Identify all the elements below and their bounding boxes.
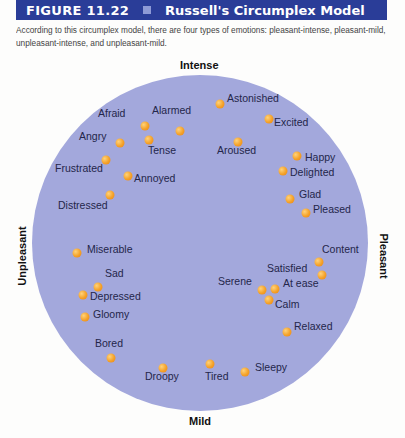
figure-title: Russell's Circumplex Model (165, 3, 365, 18)
axis-label-intense: Intense (180, 59, 219, 71)
emotion-dot (107, 354, 116, 363)
emotion-label: Angry (79, 130, 106, 142)
emotion-dot (116, 139, 125, 148)
emotion-label: Annoyed (134, 172, 175, 184)
emotion-dot (265, 115, 274, 124)
emotion-dot (286, 195, 295, 204)
emotion-dot (302, 209, 311, 218)
emotion-label: Miserable (87, 243, 133, 255)
circumplex-circle (32, 75, 368, 411)
axis-label-pleasant: Pleasant (378, 226, 390, 286)
emotion-label: Tired (205, 370, 229, 382)
figure-number: FIGURE 11.22 (26, 3, 129, 18)
emotion-dot (293, 152, 302, 161)
square-icon (143, 6, 151, 14)
emotion-label: Sad (105, 267, 124, 279)
emotion-label: Excited (274, 116, 308, 128)
emotion-label: Calm (275, 298, 300, 310)
emotion-label: Delighted (290, 166, 334, 178)
emotion-dot (216, 100, 225, 109)
emotion-dot (265, 296, 274, 305)
figure-caption: According to this circumplex model, ther… (16, 24, 391, 49)
emotion-label: Tense (148, 144, 176, 156)
emotion-label: Frustrated (55, 162, 103, 174)
emotion-label: Satisfied (267, 262, 307, 274)
axis-label-unpleasant: Unpleasant (16, 226, 28, 286)
emotion-label: Droopy (145, 370, 179, 382)
emotion-label: Alarmed (152, 104, 191, 116)
emotion-dot (283, 328, 292, 337)
emotion-label: Afraid (98, 107, 125, 119)
emotion-label: Glad (299, 188, 321, 200)
emotion-label: Happy (305, 151, 335, 163)
emotion-dot (315, 258, 324, 267)
axis-label-mild: Mild (189, 415, 211, 427)
emotion-label: Content (322, 243, 359, 255)
emotion-dot (73, 249, 82, 258)
emotion-label: Relaxed (294, 320, 333, 332)
emotion-dot (279, 167, 288, 176)
emotion-label: Gloomy (93, 308, 129, 320)
emotion-label: Distressed (58, 199, 108, 211)
emotion-dot (81, 313, 90, 322)
emotion-label: Astonished (227, 92, 279, 104)
emotion-label: Sleepy (255, 361, 287, 373)
emotion-label: Pleased (313, 203, 351, 215)
emotion-label: Aroused (217, 144, 256, 156)
emotion-dot (206, 360, 215, 369)
emotion-label: Serene (218, 275, 252, 287)
emotion-label: At ease (283, 277, 319, 289)
emotion-label: Depressed (90, 290, 141, 302)
emotion-dot (79, 291, 88, 300)
emotion-dot (176, 127, 185, 136)
emotion-dot (271, 285, 280, 294)
emotion-dot (241, 368, 250, 377)
emotion-label: Bored (95, 337, 123, 349)
figure-header: FIGURE 11.22 Russell's Circumplex Model (16, 0, 387, 20)
emotion-dot (141, 122, 150, 131)
emotion-dot (258, 286, 267, 295)
emotion-dot (124, 172, 133, 181)
